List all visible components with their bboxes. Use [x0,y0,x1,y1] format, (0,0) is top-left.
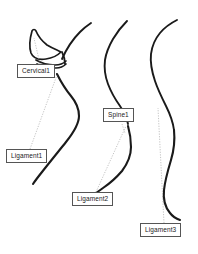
callout-ligament3[interactable]: Ligament3 [140,223,181,237]
callout-ligament2-label: Ligament2 [77,195,108,202]
callout-spine1-label: Spine1 [108,111,129,118]
callout-spine1[interactable]: Spine1 [103,108,134,122]
right-upper-spine-curve [151,20,177,130]
callout-cervical1-label: Cervical1 [22,67,50,74]
left-descending-spine-curve [33,74,79,184]
cervical-vertebra-body [30,30,61,60]
callout-cervical1[interactable]: Cervical1 [17,64,55,78]
callout-ligament2[interactable]: Ligament2 [72,192,113,206]
callout-ligament1[interactable]: Ligament1 [6,149,47,163]
figure-right-spine [151,20,180,220]
right-lower-spine-curve [164,130,180,220]
leader-line-spine1 [122,124,125,133]
diagram-canvas: Cervical1 Ligament1 Spine1 Ligament2 Lig… [0,0,198,254]
leader-line-ligament1 [30,75,57,149]
leader-line-ligament3 [158,108,164,223]
callout-ligament3-label: Ligament3 [145,226,176,233]
callout-ligament1-label: Ligament1 [11,152,42,159]
anatomical-line-drawing [0,0,198,254]
left-upper-neck-curve [62,23,91,59]
